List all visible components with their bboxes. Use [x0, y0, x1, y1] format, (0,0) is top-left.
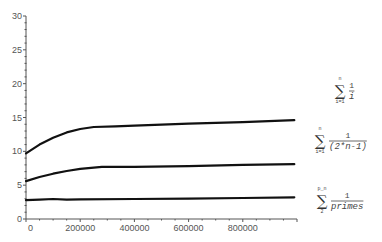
legend-entry-1: n∑i=11i: [335, 76, 355, 105]
legend-entry-3: p_n∑21primes: [317, 186, 364, 215]
fraction-denominator: (2*n-1): [329, 142, 367, 152]
fraction-numerator: 1: [349, 81, 354, 90]
x-tick-label: 400000: [119, 223, 149, 233]
sum-lower-limit: i=1: [335, 99, 344, 105]
sigma-icon: ∑: [317, 192, 328, 210]
series-line-2: [26, 164, 294, 181]
x-tick-label: 600000: [174, 223, 204, 233]
sigma-icon: ∑: [335, 82, 346, 100]
sum-lower-limit: 2: [320, 209, 323, 215]
y-tick-label: 10: [12, 146, 22, 156]
series-line-3: [26, 197, 294, 200]
y-tick-label: 15: [12, 113, 22, 123]
x-tick-label: 800000: [228, 223, 258, 233]
x-tick-label: 0: [28, 223, 33, 233]
y-tick-label: 0: [17, 214, 22, 224]
fraction-denominator: primes: [330, 202, 363, 212]
fraction-denominator: i: [349, 92, 354, 102]
fraction-numerator: 1: [345, 191, 350, 200]
series-layer: [26, 120, 294, 200]
line-chart: 0510152025300200000400000600000800000 n∑…: [0, 0, 382, 242]
x-tick-label: 200000: [65, 223, 95, 233]
fraction-numerator: 1: [345, 131, 350, 140]
legend-entry-2: n∑i=11(2*n-1): [315, 126, 367, 155]
y-tick-label: 5: [17, 180, 22, 190]
series-line-1: [26, 120, 294, 153]
y-tick-label: 25: [12, 45, 22, 55]
y-tick-label: 20: [12, 79, 22, 89]
y-tick-label: 30: [12, 11, 22, 21]
legend: n∑i=11in∑i=11(2*n-1)p_n∑21primes: [315, 76, 367, 215]
sum-lower-limit: i=1: [315, 149, 324, 155]
sigma-icon: ∑: [315, 132, 326, 150]
